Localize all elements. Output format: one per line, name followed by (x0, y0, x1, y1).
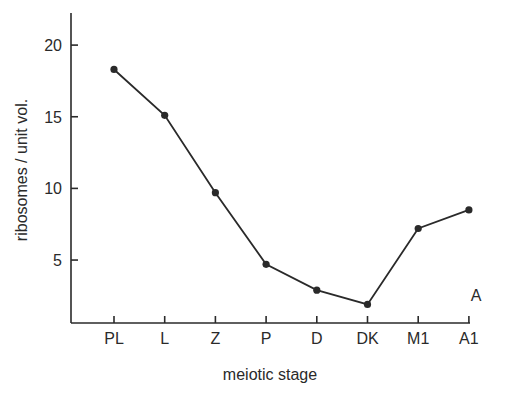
panel-label: A (471, 287, 482, 304)
x-tick-label: DK (356, 330, 379, 347)
y-axis-title: ribosomes / unit vol. (13, 99, 30, 241)
data-point (212, 189, 219, 196)
x-tick-label: M1 (407, 330, 429, 347)
data-point (415, 225, 422, 232)
data-point (263, 261, 270, 268)
y-ticks: 5101520 (44, 37, 78, 269)
y-tick-label: 20 (44, 37, 62, 54)
y-tick-label: 15 (44, 109, 62, 126)
data-point (313, 287, 320, 294)
data-point (110, 66, 117, 73)
x-tick-label: P (261, 330, 272, 347)
data-points (110, 66, 472, 308)
data-point (465, 206, 472, 213)
x-tick-label: PL (104, 330, 124, 347)
x-ticks: PLLZPDDKM1A1 (104, 316, 479, 347)
x-tick-label: D (311, 330, 323, 347)
x-tick-label: Z (211, 330, 221, 347)
data-line (114, 69, 469, 304)
data-point (364, 301, 371, 308)
x-tick-label: L (160, 330, 169, 347)
x-tick-label: A1 (459, 330, 479, 347)
y-tick-label: 5 (53, 252, 62, 269)
axes (71, 13, 470, 323)
line-chart: 5101520 PLLZPDDKM1A1 A meiotic stage rib… (0, 0, 509, 403)
data-point (161, 112, 168, 119)
x-axis-title: meiotic stage (223, 366, 317, 383)
y-tick-label: 10 (44, 180, 62, 197)
